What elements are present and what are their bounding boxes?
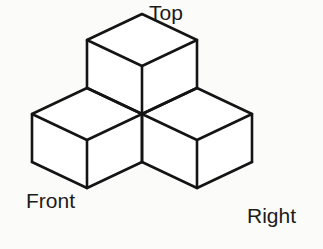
isometric-cube-diagram: Top Front Right	[0, 0, 323, 249]
label-front: Front	[26, 190, 75, 211]
label-top: Top	[149, 2, 183, 23]
label-right: Right	[247, 205, 296, 226]
